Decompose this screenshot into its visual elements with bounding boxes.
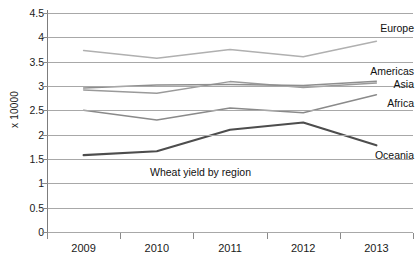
x-tickmark [340,233,341,239]
x-tickmark [413,233,414,239]
series-line-europe [84,41,377,58]
x-tickmark [193,233,194,239]
y-axis-tick-labels: 00.511.522.533.544.5 [10,0,44,265]
y-tickmark [42,62,48,63]
gridline [47,62,413,63]
y-tick-label: 1.5 [18,154,44,165]
x-tick-label: 2009 [54,242,114,254]
y-tick-label: 4.5 [18,8,44,19]
series-label-europe: Europe [380,22,414,34]
wheat-yield-line-chart: x 10000 00.511.522.533.544.5 Wheat yield… [0,0,420,265]
series-label-americas: Americas [370,65,414,77]
gridline [47,159,413,160]
y-tickmark [42,86,48,87]
x-tick-label: 2013 [346,242,406,254]
gridline [47,135,413,136]
gridline [47,183,413,184]
gridline [47,86,413,87]
y-tick-label: 2.5 [18,105,44,116]
gridline [47,37,413,38]
y-tick-label: 0.5 [18,202,44,213]
x-tick-label: 2012 [273,242,333,254]
chart-title: Wheat yield by region [150,166,251,178]
gridline [47,13,413,14]
series-label-asia: Asia [394,78,414,90]
series-label-oceania: Oceania [375,149,414,161]
gridline [47,208,413,209]
y-tick-label: 3.5 [18,56,44,67]
gridline [47,232,413,233]
y-tick-label: 1 [18,178,44,189]
series-line-oceania [84,123,377,156]
y-tick-label: 0 [18,227,44,238]
y-tickmark [42,13,48,14]
y-tick-label: 2 [18,129,44,140]
y-tickmark [42,37,48,38]
series-label-africa: Africa [387,97,414,109]
series-line-africa [84,95,377,120]
x-tickmark [120,233,121,239]
y-tickmark [42,135,48,136]
gridline [47,110,413,111]
y-tickmark [42,183,48,184]
plot-area [47,13,413,232]
series-lines [47,13,413,232]
y-tickmark [42,159,48,160]
x-tickmark [267,233,268,239]
x-tickmark [47,233,48,239]
y-tickmark [42,110,48,111]
y-tick-label: 3 [18,81,44,92]
y-tick-label: 4 [18,32,44,43]
y-tickmark [42,208,48,209]
x-tick-label: 2011 [200,242,260,254]
x-tick-label: 2010 [127,242,187,254]
